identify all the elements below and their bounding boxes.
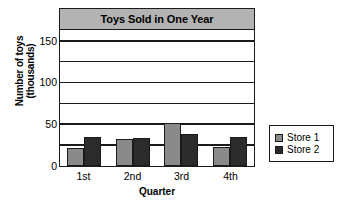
x-axis-tick-labels: 1st2nd3rd4th <box>59 170 255 182</box>
bar-group <box>164 30 198 166</box>
x-axis-tick-label: 2nd <box>111 170 155 182</box>
bar-group <box>67 30 101 166</box>
bar-group <box>116 30 150 166</box>
y-axis-tick-label: 50 <box>31 119 57 129</box>
chart-root: Number of toys (thousands) 050100150 Toy… <box>0 0 338 205</box>
bar <box>67 148 84 166</box>
chart-title: Toys Sold in One Year <box>100 13 213 25</box>
legend-swatch-icon <box>275 134 283 142</box>
bar <box>230 137 247 166</box>
x-axis-tick-label: 3rd <box>160 170 204 182</box>
y-axis-title-line1: Number of toys <box>14 16 25 126</box>
plot-canvas <box>60 30 254 166</box>
bar <box>133 138 150 166</box>
legend-item: Store 2 <box>275 144 329 155</box>
bar <box>181 134 198 166</box>
bar <box>164 123 181 166</box>
y-axis-tick-label: 100 <box>31 77 57 87</box>
x-axis-tick-label: 4th <box>209 170 253 182</box>
bar-group <box>213 30 247 166</box>
bars-layer <box>60 30 254 166</box>
legend-item: Store 1 <box>275 132 329 143</box>
bar <box>116 139 133 166</box>
chart-title-band: Toys Sold in One Year <box>60 9 254 30</box>
x-axis-tick-label: 1st <box>62 170 106 182</box>
y-axis-tick-label: 0 <box>31 161 57 171</box>
y-axis-tick-labels: 050100150 <box>28 0 57 205</box>
plot-area: Toys Sold in One Year <box>59 8 255 167</box>
bar <box>84 137 101 166</box>
legend-swatch-icon <box>275 146 283 154</box>
legend-label: Store 1 <box>287 132 319 143</box>
bar <box>213 147 230 166</box>
legend: Store 1Store 2 <box>269 125 334 162</box>
legend-label: Store 2 <box>287 144 319 155</box>
y-axis-tick-label: 150 <box>31 36 57 46</box>
x-axis-title: Quarter <box>59 186 255 197</box>
